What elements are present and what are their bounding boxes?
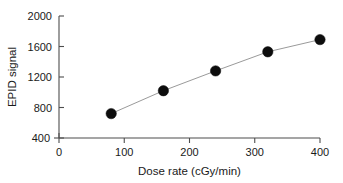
x-tick-label-100: 100 (115, 146, 133, 158)
chart-plot-area: 2000 1600 1200 800 400 0 100 200 300 400… (0, 0, 343, 183)
x-axis-title: Dose rate (cGy/min) (138, 165, 241, 177)
x-tick-label-200: 200 (180, 146, 198, 158)
chart-figure: 2000 1600 1200 800 400 0 100 200 300 400… (0, 0, 343, 183)
data-point-4 (263, 47, 273, 57)
x-tick-label-0: 0 (56, 146, 62, 158)
data-point-3 (210, 66, 220, 76)
data-point-5 (315, 34, 325, 44)
data-point-2 (158, 86, 168, 96)
y-tick-label-1200: 1200 (28, 71, 52, 83)
series-markers (106, 34, 325, 118)
data-point-1 (106, 108, 116, 118)
y-tick-label-2000: 2000 (28, 10, 52, 22)
y-tick-label-1600: 1600 (28, 41, 52, 53)
y-tick-label-800: 800 (34, 102, 52, 114)
x-tick-label-400: 400 (311, 146, 329, 158)
y-axis-title: EPID signal (6, 47, 18, 107)
series-line-epid-signal (111, 40, 320, 114)
x-tick-label-300: 300 (246, 146, 264, 158)
y-tick-label-400: 400 (32, 132, 50, 144)
